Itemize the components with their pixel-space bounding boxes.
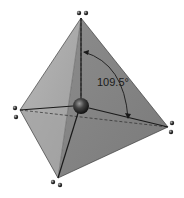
electron-dot [77, 11, 81, 15]
electron-dot [14, 115, 18, 119]
electron-dots-bottom [51, 180, 62, 187]
electron-dot [170, 121, 174, 125]
electron-dot [13, 106, 17, 110]
electron-dots-top [77, 11, 88, 15]
electron-dots-right [169, 121, 174, 134]
tetrahedron-diagram: 109.5° [0, 0, 184, 198]
face-lower-left [20, 110, 62, 178]
electron-dot [169, 130, 173, 134]
angle-label: 109.5° [97, 76, 129, 88]
electron-dot [84, 11, 88, 15]
central-atom [73, 98, 89, 114]
electron-dot [58, 183, 62, 187]
electron-dot [51, 180, 55, 184]
electron-dots-left [13, 106, 18, 119]
